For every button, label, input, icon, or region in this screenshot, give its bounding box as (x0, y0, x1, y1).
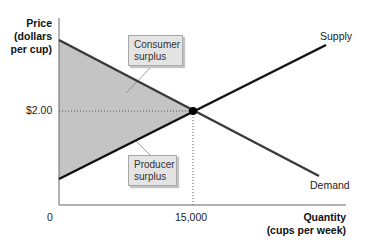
x-title-line: Quantity (267, 211, 346, 224)
x-title-line: (cups per week) (267, 224, 346, 237)
callout-text: surplus (134, 51, 177, 63)
y-title-line: Price (11, 17, 52, 30)
demand-label: Demand (310, 179, 350, 192)
callout-text: surplus (134, 171, 171, 183)
equilibrium-point (189, 107, 197, 115)
consumer-surplus-callout: Consumer surplus (128, 35, 183, 66)
callout-text: Producer (134, 159, 171, 171)
callout-text: Consumer (134, 39, 177, 51)
supply-label: Supply (320, 30, 352, 43)
origin-label: 0 (47, 211, 53, 224)
x-axis-title: Quantity (cups per week) (267, 211, 346, 237)
producer-pointer (135, 140, 150, 155)
y-title-line: (dollars (11, 30, 52, 43)
y-axis-title: Price (dollars per cup) (11, 17, 52, 56)
x-tick-label: 15,000 (175, 211, 207, 224)
y-title-line: per cup) (11, 43, 52, 56)
y-tick-label: $2.00 (26, 104, 52, 117)
producer-surplus-callout: Producer surplus (128, 155, 177, 186)
